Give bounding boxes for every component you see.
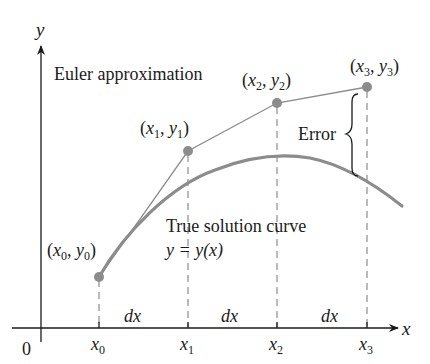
point-label-3: (x3, y3) xyxy=(350,56,399,79)
tick-label-3: x3 xyxy=(358,334,373,357)
euler-approximation-line xyxy=(99,87,367,277)
euler-diagram: y x 0 (x0, y0) (x1, y1) (x2, y2) (x3, y3… xyxy=(0,0,430,364)
y-axis-label: y xyxy=(34,19,45,40)
interval-label-2: dx xyxy=(321,306,338,326)
point-label-1: (x1, y1) xyxy=(140,118,189,141)
point-label-0: (x0, y0) xyxy=(47,240,96,263)
true-curve-label: True solution curve xyxy=(166,216,306,236)
tick-label-0: x0 xyxy=(90,334,105,357)
point-3 xyxy=(362,82,372,92)
error-brace xyxy=(346,94,358,176)
euler-approximation-label: Euler approximation xyxy=(54,64,202,84)
point-label-2: (x2, y2) xyxy=(242,70,291,93)
origin-label: 0 xyxy=(22,339,31,359)
true-curve-equation: y = y(x) xyxy=(164,240,223,261)
point-0 xyxy=(94,272,104,282)
tick-label-1: x1 xyxy=(179,334,194,357)
tick-label-2: x2 xyxy=(268,334,283,357)
interval-label-1: dx xyxy=(221,306,238,326)
point-2 xyxy=(272,98,282,108)
error-label: Error xyxy=(298,124,336,144)
interval-label-0: dx xyxy=(124,306,141,326)
point-1 xyxy=(183,146,193,156)
x-axis-label: x xyxy=(401,318,411,339)
